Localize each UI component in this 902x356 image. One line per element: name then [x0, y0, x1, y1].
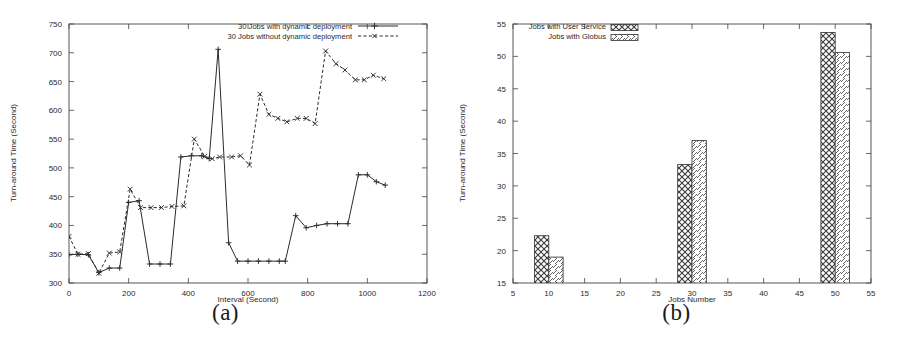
chart-b-y-tick-label: 55: [497, 20, 506, 29]
chart-a-series-marker-0: [356, 172, 362, 178]
chart-b-svg: 152025303540455055 510152025303540455055…: [451, 0, 902, 305]
chart-b-legend-swatch-1: [611, 35, 638, 41]
chart-a-series-marker-1: [334, 61, 339, 66]
chart-a-series-marker-1: [343, 68, 348, 73]
chart-b-y-tick-label: 35: [497, 150, 506, 159]
chart-a-series-marker-1: [323, 49, 328, 54]
chart-b-y-tick-label: 45: [497, 85, 506, 94]
chart-b-y-tick-label: 50: [497, 52, 506, 61]
chart-b-bar: [821, 32, 835, 283]
chart-a-series-marker-0: [157, 261, 163, 267]
chart-b-legend-swatch-0: [611, 25, 638, 31]
chart-b-y-tick-label: 20: [497, 247, 506, 256]
chart-a-y-tick-label: 700: [49, 49, 63, 58]
chart-a-ylabel: Turn-around Time (Second): [9, 104, 18, 202]
chart-a-series-marker-1: [258, 92, 263, 97]
chart-a-x-tick-label: 0: [67, 289, 72, 298]
chart-a-x-tick-label: 400: [182, 289, 196, 298]
subfigure-a-caption: (a): [0, 300, 451, 326]
chart-a-series-marker-1: [275, 116, 280, 121]
chart-a-legend: 30 Jobs with dynamic deployment 30 Jobs …: [227, 22, 398, 41]
chart-a-series-marker-0: [147, 261, 153, 267]
chart-a-y-tick-label: 550: [49, 135, 63, 144]
chart-b-bars-group: [534, 32, 849, 283]
chart-b-x-tick-label: 15: [580, 289, 589, 298]
chart-b-x-tick-label: 40: [759, 289, 768, 298]
chart-a-y-tick-label: 400: [49, 221, 63, 230]
chart-a-series-marker-1: [266, 112, 271, 117]
chart-a-y-tick-label: 500: [49, 164, 63, 173]
chart-a-plot: 300350400450500550600650700750 020040060…: [0, 0, 451, 305]
chart-a-series-marker-0: [314, 223, 320, 229]
figure-row: 300350400450500550600650700750 020040060…: [0, 0, 902, 356]
chart-a-series-marker-0: [382, 182, 388, 188]
chart-a-y-tick-label: 650: [49, 78, 63, 87]
chart-a-x-axis: 020040060080010001200: [67, 24, 437, 298]
chart-b-ylabel: Turn-around Time (Second): [458, 104, 467, 202]
chart-b-x-tick-label: 5: [511, 289, 516, 298]
chart-a-y-tick-label: 350: [49, 250, 63, 259]
chart-a-legend-label-0: 30 Jobs with dynamic deployment: [238, 22, 353, 31]
chart-b-x-tick-label: 45: [795, 289, 804, 298]
chart-a-series-marker-0: [245, 258, 251, 264]
subfigure-b-caption: (b): [451, 300, 902, 326]
chart-a-series-marker-0: [335, 221, 341, 227]
chart-a-series-marker-0: [66, 252, 72, 258]
chart-a-series-marker-0: [168, 261, 174, 267]
chart-a-series-marker-1: [284, 119, 289, 124]
chart-b-y-tick-label: 25: [497, 214, 506, 223]
subfigure-b: 152025303540455055 510152025303540455055…: [451, 0, 902, 356]
chart-a-series-marker-0: [226, 240, 232, 246]
chart-a-series-marker-1: [192, 137, 197, 142]
chart-a-series-marker-0: [215, 47, 221, 53]
chart-a-series-marker-0: [266, 258, 272, 264]
chart-a-series-marker-0: [189, 153, 195, 159]
chart-a-x-tick-label: 800: [301, 289, 315, 298]
chart-a-x-tick-label: 1200: [418, 289, 436, 298]
subfigure-a: 300350400450500550600650700750 020040060…: [0, 0, 451, 356]
chart-b-y-tick-label: 30: [497, 182, 506, 191]
chart-a-series-marker-0: [117, 265, 123, 271]
chart-a-series-marker-0: [178, 154, 184, 160]
chart-b-legend-label-0: Jobs with User Service: [529, 22, 606, 31]
chart-b-legend-label-1: Jobs with Globus: [548, 32, 606, 41]
chart-b-x-tick-label: 25: [652, 289, 661, 298]
chart-a-series-marker-1: [381, 76, 386, 81]
chart-b-bar: [835, 52, 849, 283]
chart-a-series-marker-0: [235, 258, 241, 264]
chart-a-y-tick-label: 750: [49, 20, 63, 29]
chart-a-series-marker-0: [324, 221, 330, 227]
chart-b-y-tick-label: 40: [497, 117, 506, 126]
chart-a-y-tick-label: 450: [49, 193, 63, 202]
chart-a-series-marker-0: [282, 258, 288, 264]
chart-a-series-marker-1: [313, 121, 318, 126]
chart-a-series-group: [66, 47, 388, 276]
chart-a-series-marker-1: [371, 73, 376, 78]
chart-a-x-tick-label: 200: [122, 289, 136, 298]
chart-b-y-tick-label: 15: [497, 279, 506, 288]
chart-a-series-marker-0: [106, 265, 112, 271]
chart-b-x-tick-label: 50: [831, 289, 840, 298]
chart-b-bar: [678, 165, 692, 283]
chart-a-series-line-1: [69, 51, 384, 273]
chart-a-series-marker-0: [256, 258, 262, 264]
chart-b-bar: [534, 236, 548, 283]
chart-b-bar: [549, 257, 563, 283]
chart-a-y-tick-label: 600: [49, 106, 63, 115]
chart-a-y-tick-label: 300: [49, 279, 63, 288]
chart-b-legend: Jobs with User Service Jobs with Globus: [529, 22, 638, 41]
chart-a-series-line-0: [69, 49, 385, 272]
chart-a-x-tick-label: 1000: [358, 289, 376, 298]
chart-b-x-tick-label: 20: [616, 289, 625, 298]
chart-a-legend-label-1: 30 Jobs without dynamic deployment: [227, 32, 352, 41]
chart-a-svg: 300350400450500550600650700750 020040060…: [0, 0, 451, 305]
chart-b-x-tick-label: 10: [544, 289, 553, 298]
chart-b-plot: 152025303540455055 510152025303540455055…: [451, 0, 902, 305]
chart-a-series-marker-0: [277, 258, 283, 264]
chart-b-x-tick-label: 55: [867, 289, 876, 298]
chart-b-bar: [692, 141, 706, 283]
chart-a-series-marker-0: [345, 221, 351, 227]
chart-a-y-axis: 300350400450500550600650700750: [49, 20, 427, 288]
chart-b-x-tick-label: 35: [723, 289, 732, 298]
